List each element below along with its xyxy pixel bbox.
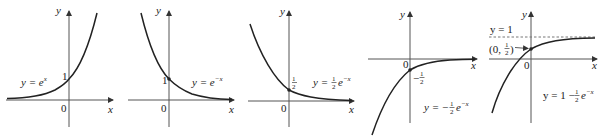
intercept-label: − 1 2 (413, 70, 425, 86)
panel-one-minus-half-exp-neg-x: y x 0 y = 1 (0, 1 2 ) y = 1 − 1 2 e−x (489, 8, 597, 123)
svg-text:2: 2 (420, 78, 424, 86)
origin-label: 0 (403, 58, 409, 70)
svg-text:y = −: y = − (423, 101, 449, 113)
x-axis-label: x (228, 103, 234, 115)
panel-neg-half-exp-neg-x: y x 0 − 1 2 y = − 1 2 e−x (368, 8, 477, 135)
equation-label: y = e−x (191, 75, 223, 88)
pointer-arrow (515, 48, 528, 49)
panel-exp-neg-x: y x 0 1 y = e−x (128, 4, 234, 127)
y-axis-label: y (521, 8, 527, 20)
equation-label: y = 1 − 1 2 e−x (543, 88, 595, 104)
y-axis-label: y (55, 4, 61, 16)
intercept-label: 1 2 (292, 75, 297, 91)
x-axis-label: x (591, 59, 597, 71)
svg-text:1: 1 (292, 75, 296, 83)
origin-label: 0 (61, 102, 67, 114)
svg-text:2: 2 (575, 96, 579, 104)
curve (372, 59, 475, 135)
svg-text:(0,: (0, (489, 43, 501, 56)
origin-label: 0 (161, 102, 167, 114)
y-axis-label: y (399, 8, 405, 20)
panel-half-exp-neg-x: y x 0 1 2 y = 1 2 e−x (248, 5, 354, 127)
svg-text:1: 1 (420, 70, 424, 78)
intercept-point (408, 68, 412, 72)
svg-text:2: 2 (505, 49, 509, 57)
svg-text:e−x: e−x (338, 75, 352, 88)
svg-text:1: 1 (505, 41, 509, 49)
y-axis-label: y (279, 5, 285, 17)
svg-text:1: 1 (575, 88, 579, 96)
curve (141, 13, 232, 100)
intercept-label: 1 (62, 70, 68, 82)
svg-text:): ) (510, 43, 514, 56)
point-label: (0, 1 2 ) (489, 41, 514, 57)
panel-exp-x: y x 0 1 y = ex (6, 4, 113, 127)
equation-label: y = − 1 2 e−x (423, 100, 470, 116)
exponential-transformations-figure: y x 0 1 y = ex y x 0 1 y = e−x y x 0 1 2… (0, 0, 600, 140)
svg-text:y =: y = (312, 76, 328, 88)
intercept-point (529, 47, 533, 51)
equation-label: y = 1 2 e−x (312, 75, 352, 91)
intercept-point (287, 88, 291, 92)
y-axis-label: y (155, 4, 161, 16)
svg-text:1: 1 (450, 100, 454, 108)
svg-text:e−x: e−x (581, 88, 595, 101)
x-axis-label: x (470, 59, 476, 71)
x-axis-label: x (107, 103, 113, 115)
svg-text:−: − (413, 72, 419, 84)
asymptote-label: y = 1 (490, 23, 513, 35)
intercept-label: 1 (162, 74, 168, 86)
equation-label: y = ex (20, 75, 48, 88)
svg-text:e−x: e−x (456, 100, 470, 113)
origin-label: 0 (524, 59, 530, 71)
svg-text:y = 1 −: y = 1 − (543, 89, 575, 101)
svg-text:2: 2 (332, 83, 336, 91)
svg-text:2: 2 (450, 108, 454, 116)
svg-text:1: 1 (332, 75, 336, 83)
intercept-point (167, 77, 171, 81)
x-axis-label: x (348, 103, 354, 115)
svg-text:2: 2 (292, 83, 296, 91)
curve (250, 24, 352, 101)
origin-label: 0 (281, 102, 287, 114)
